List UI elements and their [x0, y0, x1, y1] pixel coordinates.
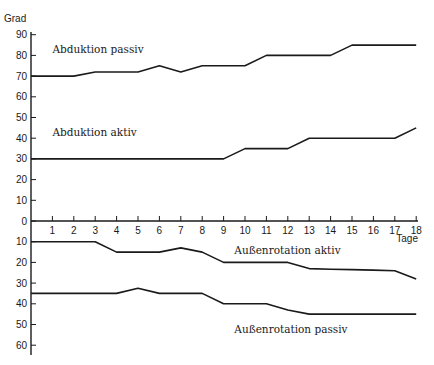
line-aussenrotation-passiv: [31, 288, 416, 314]
y-tick-label: 30: [16, 153, 28, 164]
y-tick-label: 30: [16, 278, 28, 289]
y-tick-label: 80: [16, 50, 28, 61]
x-ticks: 123456789101112131415161718: [50, 216, 423, 236]
x-tick-label: 10: [239, 225, 251, 236]
x-tick-label: 1: [50, 225, 56, 236]
label-abduktion-aktiv: Abduktion aktiv: [51, 126, 136, 138]
y-axis: Grad 9080706050403020100102030405060: [4, 13, 36, 355]
x-tick-label: 11: [261, 225, 272, 236]
y-tick-label: 20: [16, 257, 28, 268]
y-tick-label: 60: [16, 91, 28, 102]
x-tick-label: 18: [411, 225, 423, 236]
y-ticks: 9080706050403020100102030405060: [16, 29, 36, 351]
x-tick-label: 5: [135, 225, 141, 236]
series-lines: [31, 45, 416, 314]
y-tick-label: 10: [16, 236, 28, 247]
y-tick-label: 40: [16, 298, 28, 309]
y-tick-label: 0: [21, 216, 27, 227]
x-tick-label: 9: [221, 225, 227, 236]
x-tick-label: 17: [389, 225, 401, 236]
y-tick-label: 90: [16, 29, 28, 40]
y-tick-label: 10: [16, 195, 28, 206]
y-tick-label: 50: [16, 112, 28, 123]
y-tick-label: 60: [16, 340, 28, 351]
chart: Grad 9080706050403020100102030405060 Tag…: [0, 0, 434, 365]
y-axis-label: Grad: [4, 13, 26, 24]
y-tick-label: 20: [16, 174, 28, 185]
y-tick-label: 70: [16, 71, 28, 82]
x-tick-label: 7: [178, 225, 184, 236]
x-tick-label: 2: [71, 225, 77, 236]
x-tick-label: 8: [199, 225, 205, 236]
label-abduktion-passiv: Abduktion passiv: [51, 43, 143, 55]
line-aussenrotation-aktiv: [31, 242, 416, 279]
x-tick-label: 14: [325, 225, 337, 236]
x-tick-label: 15: [346, 225, 358, 236]
series-labels: Abduktion passiv Abduktion aktiv Außenro…: [51, 43, 347, 334]
label-aussenrotation-aktiv: Außenrotation aktiv: [233, 244, 340, 256]
x-tick-label: 3: [92, 225, 98, 236]
x-axis: Tage 123456789101112131415161718: [31, 216, 422, 244]
label-aussenrotation-passiv: Außenrotation passiv: [233, 323, 347, 335]
x-tick-label: 12: [282, 225, 294, 236]
x-tick-label: 4: [114, 225, 120, 236]
x-tick-label: 13: [304, 225, 316, 236]
y-tick-label: 40: [16, 133, 28, 144]
x-tick-label: 16: [368, 225, 380, 236]
y-tick-label: 50: [16, 319, 28, 330]
x-tick-label: 6: [157, 225, 163, 236]
